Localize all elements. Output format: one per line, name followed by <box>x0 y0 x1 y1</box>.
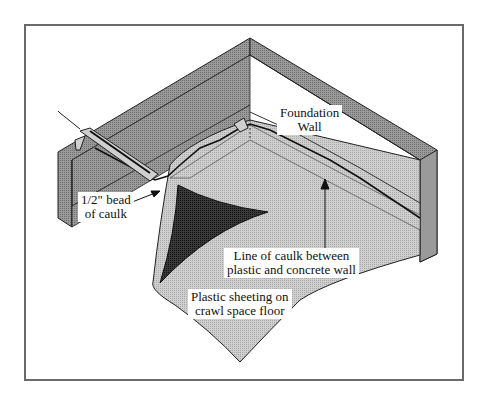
label-plastic-sheeting: Plastic sheeting on crawl space floor <box>188 289 292 319</box>
label-foundation-wall: Foundation Wall <box>277 105 342 135</box>
label-line-of-caulk: Line of caulk between plastic and concre… <box>224 248 359 278</box>
label-bead-of-caulk: 1/2" bead of caulk <box>78 192 134 222</box>
crawl-space-illustration <box>0 0 492 402</box>
